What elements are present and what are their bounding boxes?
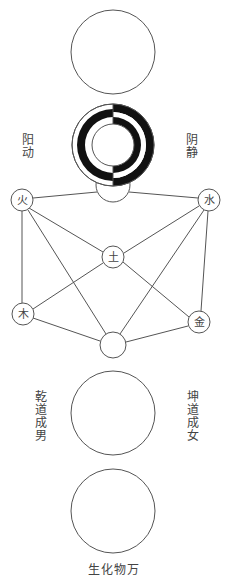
wood-label: 木 <box>18 308 29 321</box>
yin-jing-label: 阴静 <box>182 133 197 159</box>
yang-dong-label: 阳动 <box>18 133 33 159</box>
kun-dao-label: 坤道成女 <box>183 390 198 442</box>
taiji-diagram: 火 水 土 木 金 <box>0 0 226 587</box>
water-label: 水 <box>204 194 215 207</box>
wuji-circle <box>71 10 155 94</box>
merge-node <box>100 332 126 358</box>
wanwu-label: 生化物万 <box>88 560 140 577</box>
kanli-taiji-rings <box>72 104 154 186</box>
wanwu-circle <box>71 469 155 553</box>
fire-label: 火 <box>17 194 28 207</box>
earth-label: 土 <box>108 251 119 264</box>
qian-dao-label: 乾道成男 <box>31 390 46 442</box>
metal-label: 金 <box>194 315 205 329</box>
qiankun-circle <box>71 371 155 455</box>
